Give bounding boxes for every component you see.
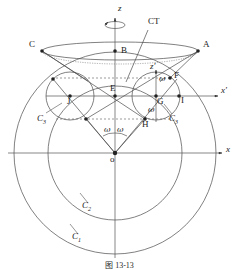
leader-c3-left (46, 103, 62, 113)
point-marker-left-lower (84, 117, 88, 121)
axis-label-z-prime: z′ (150, 62, 155, 71)
curve-label-c2: C2 (82, 201, 91, 212)
angle-label-omega-upper-right: ω (159, 75, 166, 83)
angle-label-omega-left: ω (104, 126, 111, 134)
point-label-o: o (110, 155, 115, 164)
point-marker-c (40, 49, 44, 53)
axis-label-x-prime: x′ (221, 86, 227, 95)
point-label-f: F (174, 71, 179, 80)
ct-leader-line (126, 30, 148, 82)
point-label-a: A (203, 40, 210, 49)
curve-label-c3-left-sub: 3 (43, 119, 46, 125)
point-marker-a (196, 49, 200, 53)
curve-label-c2-sub: 2 (88, 206, 91, 212)
top-ellipse-rim (42, 42, 198, 60)
geometric-figure: z x x′ z′ A B C E F G H I J o C1 C2 C3 C… (0, 0, 239, 270)
curve-label-c3-right-sub: 3 (175, 119, 178, 125)
point-label-e: E (110, 84, 116, 93)
annotation-label-ct: CT (148, 17, 160, 26)
point-label-c: C (29, 40, 35, 49)
point-marker-left-upper (51, 77, 55, 81)
curve-label-c1-sub: 1 (78, 237, 81, 243)
curve-label-c1: C1 (72, 232, 81, 243)
point-label-h: H (142, 120, 149, 129)
axis-label-z: z (118, 4, 122, 13)
point-marker-f (168, 76, 172, 80)
point-label-b: B (121, 46, 127, 55)
axis-label-x: x (226, 145, 230, 154)
point-label-g: G (157, 97, 164, 106)
point-label-i: I (181, 96, 184, 105)
curve-label-c3-left: C3 (37, 114, 46, 125)
figure-caption: 图 13-13 (0, 259, 239, 270)
cone-line-a-to-left (86, 51, 198, 119)
curve-label-c3-right: C3 (169, 114, 178, 125)
point-label-j: J (67, 97, 71, 106)
angle-label-omega-lower-right: ω (148, 106, 155, 114)
point-marker-b (113, 49, 117, 53)
ray-o-to-right-upper (115, 79, 177, 153)
angle-label-omega-right: ω (117, 126, 124, 134)
point-marker-e (113, 94, 117, 98)
